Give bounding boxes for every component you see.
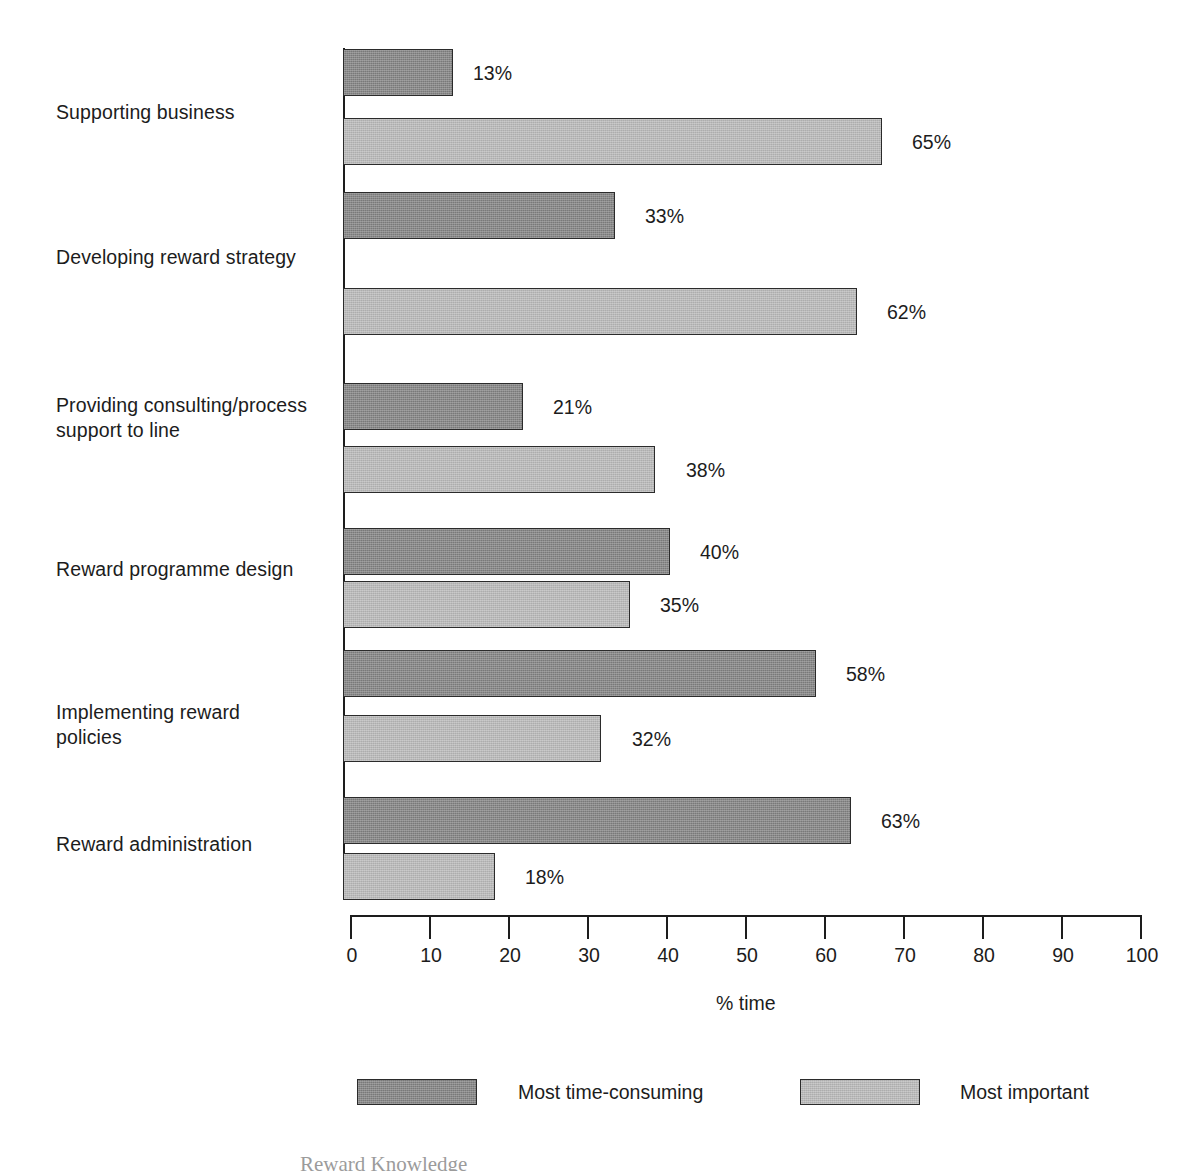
x-axis-tick-label-60: 60 (815, 945, 837, 966)
x-axis-tick-label-0: 0 (347, 945, 358, 966)
bar-most-time-consuming-reward-administration (343, 797, 851, 844)
footer-partial-caption: Reward Knowledge (300, 1152, 1000, 1171)
x-axis-tick-30 (587, 915, 589, 939)
bar-most-important-providing-consulting-support (343, 446, 655, 493)
x-axis-tick-label-20: 20 (499, 945, 521, 966)
bar-most-time-consuming-providing-consulting-support (343, 383, 523, 430)
legend-label-most-time-consuming: Most time-consuming (518, 1079, 703, 1105)
legend-swatch-most-important (800, 1079, 920, 1105)
bar-most-important-reward-administration (343, 853, 495, 900)
x-axis-tick-100 (1140, 915, 1142, 939)
bar-value-58: 58% (846, 663, 885, 685)
bar-value-65: 65% (912, 131, 951, 153)
bar-value-38: 38% (686, 459, 725, 481)
x-axis-tick-40 (666, 915, 668, 939)
x-axis-tick-label-90: 90 (1052, 945, 1074, 966)
x-axis-tick-label-50: 50 (736, 945, 758, 966)
x-axis-tick-label-100: 100 (1126, 945, 1159, 966)
bar-most-time-consuming-developing-reward-strategy (343, 192, 615, 239)
category-label-implementing-reward-policies: Implementing reward policies (56, 700, 336, 750)
bar-value-13: 13% (473, 62, 512, 84)
x-axis-tick-20 (508, 915, 510, 939)
bar-value-63: 63% (881, 810, 920, 832)
category-label-providing-consulting-support: Providing consulting/process support to … (56, 393, 356, 443)
x-axis-tick-0 (350, 915, 352, 939)
bar-most-important-supporting-business (343, 118, 882, 165)
bar-value-33: 33% (645, 205, 684, 227)
bar-value-21: 21% (553, 396, 592, 418)
bar-most-important-developing-reward-strategy (343, 288, 857, 335)
bar-most-important-implementing-reward-policies (343, 715, 601, 762)
x-axis-title: % time (716, 992, 776, 1015)
legend-swatch-most-time-consuming (357, 1079, 477, 1105)
x-axis-tick-50 (745, 915, 747, 939)
bar-most-time-consuming-supporting-business (343, 49, 453, 96)
bar-value-35: 35% (660, 594, 699, 616)
bar-most-time-consuming-implementing-reward-policies (343, 650, 816, 697)
x-axis-tick-label-10: 10 (420, 945, 442, 966)
chart-page: Supporting business 13% 65% Developing r… (0, 0, 1204, 1171)
bar-value-32: 32% (632, 728, 671, 750)
category-label-developing-reward-strategy: Developing reward strategy (56, 245, 346, 270)
bar-value-62: 62% (887, 301, 926, 323)
legend-label-most-important: Most important (960, 1079, 1089, 1105)
x-axis-tick-10 (429, 915, 431, 939)
x-axis-tick-70 (903, 915, 905, 939)
category-label-reward-programme-design: Reward programme design (56, 557, 346, 582)
bar-value-40: 40% (700, 541, 739, 563)
bar-chart-plot: Supporting business 13% 65% Developing r… (0, 0, 1204, 1171)
x-axis-tick-label-30: 30 (578, 945, 600, 966)
category-label-reward-administration: Reward administration (56, 832, 336, 857)
bar-most-time-consuming-reward-programme-design (343, 528, 670, 575)
x-axis-tick-90 (1061, 915, 1063, 939)
category-label-supporting-business: Supporting business (56, 100, 336, 125)
bar-most-important-reward-programme-design (343, 581, 630, 628)
x-axis-tick-80 (982, 915, 984, 939)
bar-value-18: 18% (525, 866, 564, 888)
x-axis-tick-label-70: 70 (894, 945, 916, 966)
x-axis-tick-60 (824, 915, 826, 939)
x-axis-tick-label-80: 80 (973, 945, 995, 966)
x-axis-tick-label-40: 40 (657, 945, 679, 966)
